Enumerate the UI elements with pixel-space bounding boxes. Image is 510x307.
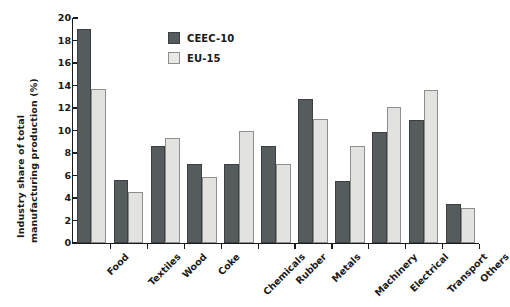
bar-group [446, 18, 476, 243]
legend-item-eu-15: EU-15 [168, 49, 278, 67]
x-axis-label-coke: Coke [216, 251, 242, 277]
bar-group [114, 18, 144, 243]
bar-eu-15-rubber [276, 164, 291, 243]
y-axis-tick-label: 6 [64, 169, 71, 182]
x-axis-line [72, 243, 479, 244]
x-axis-tick-mark [368, 244, 369, 249]
bar-group [77, 18, 107, 243]
legend-label: CEEC-10 [187, 33, 234, 44]
bar-eu-15-wood [165, 138, 180, 243]
y-axis-tick-label: 20 [58, 11, 71, 24]
bar-group [409, 18, 439, 243]
y-axis-tick-label: 0 [64, 236, 71, 249]
y-axis-tick-label: 2 [64, 214, 71, 227]
x-axis-label-food: Food [105, 251, 131, 277]
y-axis-tick-label: 10 [58, 124, 71, 137]
bar-ceec-10-coke [187, 164, 202, 243]
bar-ceec-10-chemicals [224, 164, 239, 243]
x-axis-tick-mark [331, 244, 332, 249]
bar-ceec-10-rubber [261, 146, 276, 243]
bar-eu-15-coke [202, 177, 217, 243]
y-axis-tick-label: 12 [58, 101, 71, 114]
y-axis-title-line-2: manufacturing production (%) [27, 78, 40, 243]
legend-item-ceec-10: CEEC-10 [168, 29, 278, 47]
x-axis-label-textiles: Textiles [146, 251, 183, 288]
y-axis-tick-label: 8 [64, 146, 71, 159]
bar-ceec-10-others [446, 204, 461, 243]
bar-eu-15-chemicals [239, 131, 254, 244]
bar-group [298, 18, 328, 243]
x-axis-tick-mark [258, 244, 259, 249]
bar-eu-15-machinery [350, 146, 365, 243]
y-axis-tick-label: 14 [58, 79, 71, 92]
bar-group [372, 18, 402, 243]
y-axis-title: Industry share of total manufacturing pr… [0, 0, 46, 250]
y-axis-tick-label: 16 [58, 56, 71, 69]
bar-eu-15-textiles [128, 192, 143, 243]
legend-swatch-icon [168, 32, 180, 44]
x-axis-label-wood: Wood [180, 251, 209, 280]
y-axis-tick-label: 18 [58, 34, 71, 47]
bar-ceec-10-metals [298, 99, 313, 243]
bar-ceec-10-food [77, 29, 92, 243]
bar-eu-15-others [461, 208, 476, 243]
bar-ceec-10-electrical [372, 132, 387, 243]
x-axis-tick-mark [110, 244, 111, 249]
bar-ceec-10-wood [151, 146, 166, 243]
bar-ceec-10-transport [409, 120, 424, 243]
x-axis-tick-mark [147, 244, 148, 249]
legend-swatch-icon [168, 52, 180, 64]
chart-legend: CEEC-10EU-15 [168, 29, 278, 69]
bar-group [335, 18, 365, 243]
bar-eu-15-electrical [387, 107, 402, 243]
x-axis-tick-mark [184, 244, 185, 249]
x-axis-tick-mark [442, 244, 443, 249]
bar-eu-15-transport [424, 90, 439, 243]
x-axis-tick-mark [294, 244, 295, 249]
bar-ceec-10-machinery [335, 181, 350, 243]
bar-eu-15-food [91, 89, 106, 243]
bar-eu-15-metals [313, 119, 328, 243]
y-axis-tick-label: 4 [64, 191, 71, 204]
y-axis-title-line-1: Industry share of total [14, 115, 27, 238]
bar-ceec-10-textiles [114, 180, 129, 243]
x-axis-tick-mark [405, 244, 406, 249]
legend-label: EU-15 [187, 53, 221, 64]
x-axis-tick-mark [221, 244, 222, 249]
x-axis-tick-mark [479, 244, 480, 249]
x-axis-label-metals: Metals [329, 251, 362, 284]
